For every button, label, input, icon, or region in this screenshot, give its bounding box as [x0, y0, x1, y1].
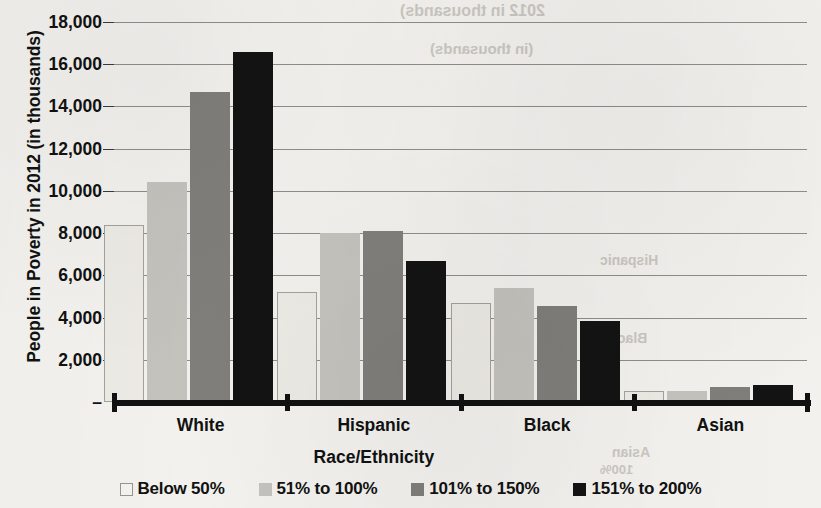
legend-label: 151% to 200%: [591, 479, 701, 499]
bar-group-asian: [634, 22, 807, 402]
y-axis-tick-mark: [103, 106, 114, 107]
y-axis-tick-mark: [103, 22, 114, 23]
x-axis-separator: [459, 394, 464, 411]
legend-label: Below 50%: [138, 479, 225, 499]
x-axis-separator: [285, 394, 290, 411]
x-axis-end-cap: [805, 393, 810, 412]
legend-item-0[interactable]: Below 50%: [120, 479, 225, 499]
bar: [147, 182, 187, 402]
series-3-swatch: [573, 483, 586, 496]
bar: [537, 306, 577, 402]
bar-group-hispanic: [287, 22, 460, 402]
y-axis-tick-mark: [103, 64, 114, 65]
bar: [494, 288, 534, 402]
bar: [233, 52, 273, 402]
chart-legend: Below 50%51% to 100%101% to 150%151% to …: [0, 476, 821, 502]
bar-group-white: [114, 22, 287, 402]
y-axis-tick-label: 14,000: [0, 96, 102, 117]
series-0-swatch: [120, 483, 133, 496]
legend-label: 51% to 100%: [277, 479, 378, 499]
y-axis-tick-label: 8,000: [0, 223, 102, 244]
x-axis-label-asian: Asian: [634, 415, 807, 436]
bar-group-black: [461, 22, 634, 402]
x-axis-end-cap: [112, 393, 117, 412]
bar: [580, 321, 620, 402]
bar: [363, 231, 403, 402]
bar: [451, 303, 491, 402]
x-axis-label-hispanic: Hispanic: [287, 415, 460, 436]
y-axis-tick-label: –: [0, 392, 102, 413]
series-2-swatch: [411, 483, 424, 496]
bar: [320, 233, 360, 402]
x-axis-label-white: White: [114, 415, 287, 436]
y-axis-tick-label: 4,000: [0, 307, 102, 328]
legend-item-2[interactable]: 101% to 150%: [411, 479, 539, 499]
legend-item-3[interactable]: 151% to 200%: [573, 479, 701, 499]
bar: [190, 92, 230, 402]
y-axis-tick-label: 12,000: [0, 138, 102, 159]
y-axis-tick-mark: [103, 191, 114, 192]
bar-chart: People in Poverty in 2012 (in thousands)…: [0, 0, 821, 508]
legend-label: 101% to 150%: [429, 479, 539, 499]
y-axis-tick-label: 2,000: [0, 349, 102, 370]
bar: [277, 292, 317, 402]
x-axis-label-black: Black: [461, 415, 634, 436]
y-axis-tick-label: 10,000: [0, 180, 102, 201]
bar-series-container: [114, 22, 807, 402]
y-axis-tick-mark: [103, 149, 114, 150]
bar: [406, 261, 446, 402]
x-axis-title: Race/Ethnicity: [274, 447, 474, 468]
y-axis-tick-label: 16,000: [0, 54, 102, 75]
bar: [104, 225, 144, 402]
y-axis-tick-label: 18,000: [0, 12, 102, 33]
legend-item-1[interactable]: 51% to 100%: [259, 479, 378, 499]
x-axis-separator: [632, 394, 637, 411]
y-axis-tick-label: 6,000: [0, 265, 102, 286]
plot-area: [114, 22, 807, 402]
series-1-swatch: [259, 483, 272, 496]
